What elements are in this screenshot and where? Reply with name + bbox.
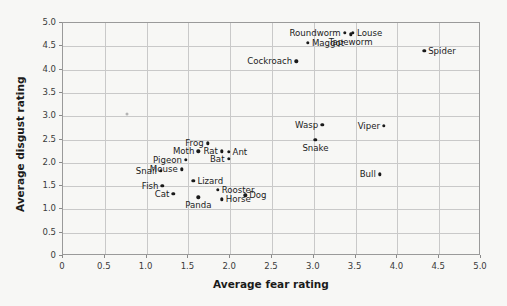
data-point: [382, 124, 385, 127]
data-point: [349, 32, 352, 35]
data-point: [314, 138, 317, 141]
y-axis-tick-label: 5.0: [28, 17, 56, 27]
data-point: [192, 179, 195, 182]
x-axis-tick-mark: [62, 255, 63, 258]
x-axis-tick-mark: [313, 255, 314, 258]
y-axis-tick-mark: [59, 185, 62, 186]
x-axis-tick-mark: [271, 255, 272, 258]
y-axis-tick-mark: [59, 92, 62, 93]
y-axis-tick-label: 0.5: [28, 227, 56, 237]
data-point-label: Panda: [185, 201, 211, 210]
x-axis-tick-label: 2.0: [222, 261, 236, 271]
data-point-label: Snake: [302, 144, 328, 153]
gridline-vertical: [147, 23, 148, 254]
gridline-horizontal: [63, 233, 479, 234]
gridline-vertical: [397, 23, 398, 254]
data-point-label: Maggot: [312, 39, 344, 48]
x-axis-tick-label: 4.5: [431, 261, 445, 271]
data-point: [184, 158, 187, 161]
data-point: [126, 112, 129, 115]
y-axis-tick-mark: [59, 208, 62, 209]
x-axis-tick-mark: [187, 255, 188, 258]
data-point-label: Viper: [358, 121, 380, 130]
data-point: [220, 149, 223, 152]
y-axis-tick-label: 4.5: [28, 40, 56, 50]
y-axis-tick-mark: [59, 115, 62, 116]
y-axis-tick-label: 3.5: [28, 87, 56, 97]
gridline-horizontal: [63, 116, 479, 117]
data-point: [306, 41, 309, 44]
y-axis-tick-mark: [59, 69, 62, 70]
y-axis-tick-mark: [59, 162, 62, 163]
x-axis-tick-label: 3.0: [306, 261, 320, 271]
y-axis-tick-label: 0: [28, 250, 56, 260]
y-axis-tick-label: 1.0: [28, 203, 56, 213]
x-axis-tick-label: 1.5: [181, 261, 195, 271]
x-axis-tick-mark: [396, 255, 397, 258]
data-point: [197, 149, 200, 152]
x-axis-tick-mark: [355, 255, 356, 258]
y-axis-tick-mark: [59, 22, 62, 23]
x-axis-tick-label: 5.0: [473, 261, 487, 271]
data-point: [197, 196, 200, 199]
y-axis-tick-label: 2.0: [28, 157, 56, 167]
x-axis-tick-mark: [480, 255, 481, 258]
data-point-label: Bull: [360, 170, 376, 179]
y-axis-tick-label: 3.0: [28, 110, 56, 120]
data-point-label: Spider: [428, 47, 456, 56]
data-point: [206, 142, 209, 145]
data-point-label: Lizard: [197, 176, 223, 185]
data-point: [180, 168, 183, 171]
data-point: [220, 197, 223, 200]
data-point: [295, 60, 298, 63]
data-point-label: Pigeon: [153, 155, 182, 164]
data-point-label: Snail: [136, 166, 157, 175]
y-axis-tick-mark: [59, 139, 62, 140]
x-axis-tick-mark: [438, 255, 439, 258]
gridline-horizontal: [63, 209, 479, 210]
y-axis-tick-mark: [59, 255, 62, 256]
data-point: [161, 184, 164, 187]
data-point-label: Horse: [226, 195, 251, 204]
data-point-label: Louse: [357, 28, 382, 37]
data-point-label: Roundworm: [289, 28, 340, 37]
gridline-vertical: [356, 23, 357, 254]
x-axis-tick-label: 0.5: [97, 261, 111, 271]
scatter-chart-figure: Average disgust rating RoundwormLouseTap…: [0, 0, 507, 306]
gridline-horizontal: [63, 46, 479, 47]
data-point: [172, 192, 175, 195]
y-axis-tick-mark: [59, 45, 62, 46]
gridline-horizontal: [63, 70, 479, 71]
x-axis-tick-label: 2.5: [264, 261, 278, 271]
data-point: [320, 123, 323, 126]
data-point-label: Cockroach: [247, 57, 292, 66]
x-axis-tick-label: 1.0: [139, 261, 153, 271]
y-axis-tick-mark: [59, 232, 62, 233]
gridline-vertical: [230, 23, 231, 254]
x-axis-tick-label: 0: [59, 261, 64, 271]
data-point: [378, 173, 381, 176]
data-point-label: Ant: [233, 148, 248, 157]
data-point: [343, 31, 346, 34]
y-axis-title: Average disgust rating: [14, 77, 26, 212]
data-point: [422, 49, 425, 52]
data-point: [216, 188, 219, 191]
gridline-horizontal: [63, 140, 479, 141]
x-axis-tick-mark: [229, 255, 230, 258]
x-axis-tick-label: 3.5: [348, 261, 362, 271]
gridline-horizontal: [63, 93, 479, 94]
gridline-horizontal: [63, 186, 479, 187]
x-axis-tick-mark: [104, 255, 105, 258]
data-point-label: Bat: [210, 155, 225, 164]
x-axis-tick-mark: [146, 255, 147, 258]
gridline-horizontal: [63, 163, 479, 164]
y-axis-tick-label: 4.0: [28, 64, 56, 74]
x-axis-tick-label: 4.0: [390, 261, 404, 271]
gridline-vertical: [439, 23, 440, 254]
data-point-label: Cat: [155, 190, 170, 199]
y-axis-tick-label: 1.5: [28, 180, 56, 190]
x-axis-title: Average fear rating: [62, 278, 480, 290]
data-point-label: Wasp: [295, 120, 318, 129]
y-axis-tick-label: 2.5: [28, 134, 56, 144]
plot-area: RoundwormLouseTapewormMaggotSpiderCockro…: [62, 22, 480, 255]
